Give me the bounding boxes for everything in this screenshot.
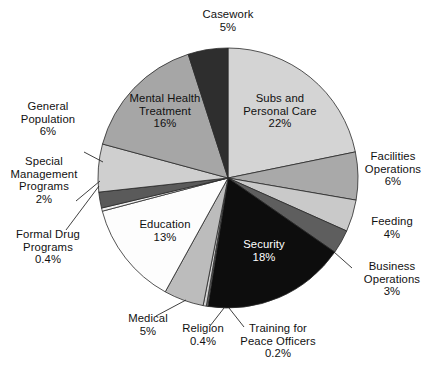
slice-name-casework: Casework [180, 8, 276, 21]
slice-name-special-management-programs-line3: Programs [2, 180, 86, 193]
slice-label-feeding: Feeding 4% [356, 215, 428, 240]
slice-label-general-population: General Population 6% [6, 100, 90, 138]
slice-label-casework: Casework 5% [180, 8, 276, 33]
slice-label-education: Education 13% [122, 218, 208, 243]
slice-label-security: Security 18% [222, 238, 306, 263]
slice-name-medical: Medical [112, 312, 184, 325]
slice-value-facilities-operations: 6% [352, 175, 434, 188]
slice-name-training-for-peace-officers-line1: Training for [226, 322, 330, 335]
pie-slices-group [98, 48, 358, 308]
slice-name-general-population-line2: Population [6, 113, 90, 126]
slice-value-training-for-peace-officers: 0.2% [226, 347, 330, 360]
slice-name-facilities-operations-line2: Operations [352, 163, 434, 176]
slice-value-mental-health-treatment: 16% [110, 117, 220, 130]
slice-label-training-for-peace-officers: Training for Peace Officers 0.2% [226, 322, 330, 360]
slice-name-training-for-peace-officers-line2: Peace Officers [226, 335, 330, 348]
slice-value-education: 13% [122, 231, 208, 244]
slice-value-medical: 5% [112, 325, 184, 338]
slice-name-formal-drug-programs-line2: Programs [2, 241, 94, 254]
slice-name-mental-health-treatment-line1: Mental Health [110, 92, 220, 105]
slice-name-special-management-programs-line1: Special [2, 155, 86, 168]
slice-name-business-operations-line1: Business [350, 260, 434, 273]
slice-name-subs-and-personal-care-line2: Personal Care [228, 105, 332, 118]
slice-label-special-management-programs: Special Management Programs 2% [2, 155, 86, 205]
slice-value-special-management-programs: 2% [2, 193, 86, 206]
slice-name-special-management-programs-line2: Management [2, 168, 86, 181]
slice-name-subs-and-personal-care-line1: Subs and [228, 92, 332, 105]
slice-label-subs-and-personal-care: Subs and Personal Care 22% [228, 92, 332, 130]
slice-value-casework: 5% [180, 21, 276, 34]
slice-name-general-population-line1: General [6, 100, 90, 113]
slice-name-security: Security [222, 238, 306, 251]
slice-value-general-population: 6% [6, 125, 90, 138]
slice-value-security: 18% [222, 251, 306, 264]
slice-label-business-operations: Business Operations 3% [350, 260, 434, 298]
slice-name-facilities-operations-line1: Facilities [352, 150, 434, 163]
slice-label-mental-health-treatment: Mental Health Treatment 16% [110, 92, 220, 130]
slice-name-mental-health-treatment-line2: Treatment [110, 105, 220, 118]
pie-chart-figure: Casework 5% Subs and Personal Care 22% F… [0, 0, 434, 374]
slice-label-facilities-operations: Facilities Operations 6% [352, 150, 434, 188]
slice-name-feeding: Feeding [356, 215, 428, 228]
slice-value-formal-drug-programs: 0.4% [2, 253, 94, 266]
slice-name-education: Education [122, 218, 208, 231]
slice-value-business-operations: 3% [350, 285, 434, 298]
slice-value-subs-and-personal-care: 22% [228, 117, 332, 130]
slice-value-feeding: 4% [356, 228, 428, 241]
slice-label-medical: Medical 5% [112, 312, 184, 337]
slice-name-business-operations-line2: Operations [350, 273, 434, 286]
slice-label-formal-drug-programs: Formal Drug Programs 0.4% [2, 228, 94, 266]
slice-name-formal-drug-programs-line1: Formal Drug [2, 228, 94, 241]
